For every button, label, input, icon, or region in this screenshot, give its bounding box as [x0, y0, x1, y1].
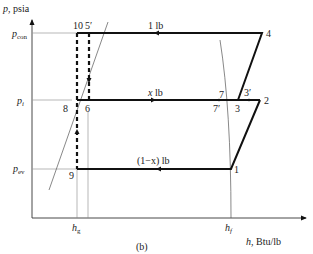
arrow-mid [151, 98, 156, 103]
point-7: 7 [219, 89, 224, 100]
saturated-liquid-curve [49, 22, 108, 190]
high-stage-loop [77, 33, 262, 100]
point-3prime: 3′ [244, 87, 251, 98]
point-2: 2 [264, 95, 269, 106]
flow-label-mid: x lb [147, 87, 163, 98]
point-9: 9 [69, 170, 74, 181]
point-4: 4 [266, 28, 271, 39]
p-i-label: pi [16, 95, 24, 108]
saturated-vapor-curve [220, 40, 231, 218]
point-5prime: 5′ [85, 20, 92, 31]
y-axis-label: p, psia [2, 3, 30, 14]
h-g-label: hg [72, 222, 81, 235]
point-8: 8 [63, 103, 68, 114]
p-ev-label: pev [12, 163, 25, 176]
point-1: 1 [234, 164, 239, 175]
h-f-label: hf [225, 222, 233, 235]
x-axis-label: h, Btu/lb [246, 236, 281, 247]
p-con-label: pcon [11, 28, 28, 41]
flow-label-high: 1 lb [148, 20, 163, 31]
arrow-9-8 [75, 129, 80, 134]
point-6: 6 [85, 103, 90, 114]
arrow-high [154, 31, 159, 36]
ph-diagram: p, psia h, Btu/lb (b) pcon pi pev hg hf … [0, 0, 313, 254]
dot-3prime [248, 99, 251, 102]
arrow-low [156, 167, 161, 172]
point-10: 10 [73, 20, 83, 31]
point-7prime: 7′ [213, 103, 220, 114]
flow-label-low: (1−x) lb [137, 155, 170, 167]
figure-caption: (b) [136, 241, 148, 253]
point-3: 3 [235, 103, 240, 114]
